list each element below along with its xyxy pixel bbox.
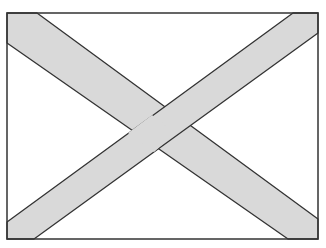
saltire-flag-diagram bbox=[0, 0, 326, 248]
